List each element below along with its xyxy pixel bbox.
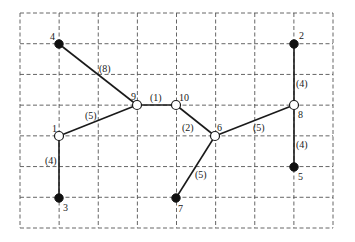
edge-weight-label: (4): [296, 78, 308, 90]
node-label: 8: [298, 109, 303, 120]
edge-weight-label: (5): [85, 110, 97, 122]
node-labels: 12345678910: [50, 30, 304, 214]
edge-weight-label: (2): [182, 122, 194, 134]
edge-weight-label: (4): [45, 155, 57, 167]
filled-node-2: [290, 40, 298, 48]
node-label: 7: [178, 203, 183, 214]
graph-diagram: (8)(1)(5)(4)(2)(5)(5)(4)(4) 12345678910: [0, 0, 355, 242]
filled-node-5: [290, 163, 298, 171]
node-label: 6: [217, 122, 222, 133]
filled-node-7: [172, 194, 180, 202]
node-label: 9: [131, 91, 136, 102]
node-label: 1: [52, 123, 57, 134]
node-label: 3: [63, 202, 68, 213]
edge-weight-label: (4): [296, 139, 308, 151]
filled-node-3: [55, 194, 63, 202]
edge-weight-label: (5): [253, 122, 265, 134]
node-label: 5: [298, 171, 303, 182]
edge-weight-label: (1): [150, 92, 162, 104]
graph-svg: (8)(1)(5)(4)(2)(5)(5)(4)(4) 12345678910: [0, 0, 355, 242]
node-label: 2: [299, 30, 304, 41]
edge-weight-label: (5): [195, 169, 207, 181]
node-label: 10: [179, 92, 189, 103]
edge-weight-label: (8): [99, 63, 111, 75]
filled-node-4: [55, 40, 63, 48]
node-label: 4: [50, 31, 55, 42]
